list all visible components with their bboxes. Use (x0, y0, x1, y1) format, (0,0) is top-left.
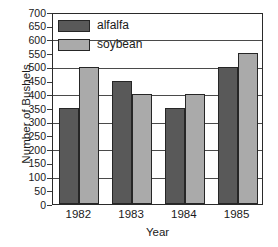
bar-alfalfa-1983 (112, 81, 132, 204)
y-tick-label: 350 (20, 104, 46, 114)
bar-soybean-1984 (185, 94, 205, 204)
legend-label-soybean: soybean (97, 38, 142, 51)
y-tick-label: 550 (20, 49, 46, 59)
bar-chart: Number of Bushels 0501001502002503003504… (0, 0, 278, 247)
y-tick-label: 450 (20, 76, 46, 86)
y-tick-label: 650 (20, 21, 46, 31)
bar-alfalfa-1984 (165, 108, 185, 204)
y-tick-label: 700 (20, 8, 46, 18)
x-tick-label-1984: 1984 (158, 208, 210, 220)
y-tick-mark (47, 205, 52, 206)
legend-label-alfalfa: alfalfa (97, 19, 129, 32)
y-tick-label: 400 (20, 90, 46, 100)
legend-item-soybean: soybean (58, 36, 142, 53)
x-axis-tick-labels: 1982198319841985 (52, 208, 263, 224)
y-tick-label: 300 (20, 117, 46, 127)
legend-swatch-soybean (58, 39, 90, 51)
y-tick-label: 200 (20, 145, 46, 155)
legend-swatch-alfalfa (58, 20, 90, 32)
legend-item-alfalfa: alfalfa (58, 17, 142, 34)
bar-alfalfa-1982 (59, 108, 79, 204)
y-tick-label: 500 (20, 62, 46, 72)
bar-soybean-1983 (132, 94, 152, 204)
y-tick-label: 50 (20, 186, 46, 196)
x-tick-label-1985: 1985 (211, 208, 263, 220)
bar-soybean-1985 (238, 53, 258, 204)
y-tick-label: 0 (20, 200, 46, 210)
x-axis-title: Year (52, 226, 263, 238)
bar-soybean-1982 (79, 67, 99, 204)
y-tick-label: 100 (20, 172, 46, 182)
y-axis-tick-labels: 0501001502002503003504004505005506006507… (18, 0, 46, 247)
gridline (53, 13, 262, 14)
x-tick-label-1983: 1983 (105, 208, 157, 220)
y-tick-label: 250 (20, 131, 46, 141)
bar-alfalfa-1985 (218, 67, 238, 204)
y-tick-label: 600 (20, 35, 46, 45)
y-tick-label: 150 (20, 158, 46, 168)
x-tick-label-1982: 1982 (52, 208, 104, 220)
legend: alfalfasoybean (58, 17, 142, 55)
